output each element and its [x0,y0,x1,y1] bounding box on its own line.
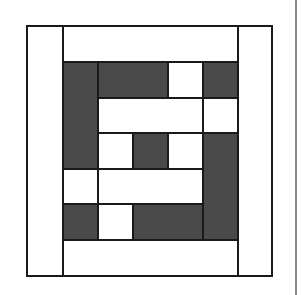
quilt-diagram [0,0,301,295]
quilt-outer-frame [26,25,273,277]
page-edge-rule [295,0,297,295]
